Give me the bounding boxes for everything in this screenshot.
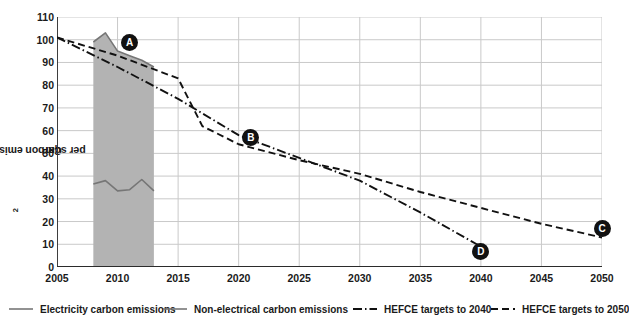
x-tick-label: 2020 <box>219 272 259 284</box>
legend-swatch-solid <box>8 304 34 314</box>
y-tick-label: 110 <box>20 12 54 22</box>
plot-area: ABCD <box>57 17 602 267</box>
x-tick-label: 2035 <box>400 272 440 284</box>
x-tick-label: 2025 <box>279 272 319 284</box>
y-tick-label: 40 <box>20 171 54 181</box>
x-tick-label: 2050 <box>582 272 622 284</box>
x-tick-label: 2010 <box>98 272 138 284</box>
x-tick-label: 2005 <box>37 272 77 284</box>
x-tick-label: 2030 <box>340 272 380 284</box>
legend-label: HEFCE targets to 2050 <box>522 304 629 315</box>
x-axis-tick-labels: 2005201020152020202520302035204020452050 <box>0 272 627 290</box>
legend-item-0[interactable]: Electricity carbon emissions <box>8 304 176 315</box>
y-tick-label: 80 <box>20 80 54 90</box>
y-tick-label: 100 <box>20 35 54 45</box>
y-tick-label: 10 <box>20 239 54 249</box>
shaded-data-band <box>93 33 154 267</box>
chart-legend: Electricity carbon emissionsNon-electric… <box>0 298 627 320</box>
annotation-marker-c: C <box>594 220 611 237</box>
x-tick-label: 2045 <box>521 272 561 284</box>
y-tick-label: 70 <box>20 103 54 113</box>
legend-swatch-dashdot <box>352 304 378 314</box>
y-tick-label: 20 <box>20 217 54 227</box>
legend-item-2[interactable]: HEFCE targets to 2040 <box>352 304 491 315</box>
legend-swatch-solid <box>162 304 188 314</box>
legend-swatch-dashed <box>490 304 516 314</box>
y-tick-label: 30 <box>20 194 54 204</box>
chart-canvas <box>57 17 602 267</box>
y-tick-label: 50 <box>20 148 54 158</box>
legend-label: Non-electrical carbon emissions <box>194 304 348 315</box>
y-tick-label: 60 <box>20 126 54 136</box>
legend-label: Electricity carbon emissions <box>40 304 176 315</box>
y-tick-label: 90 <box>20 57 54 67</box>
x-tick-label: 2015 <box>158 272 198 284</box>
y-tick-label: 0 <box>20 262 54 272</box>
annotation-marker-d: D <box>472 243 489 260</box>
legend-label: HEFCE targets to 2040 <box>384 304 491 315</box>
annotation-marker-a: A <box>121 34 138 51</box>
x-tick-label: 2040 <box>461 272 501 284</box>
legend-item-1[interactable]: Non-electrical carbon emissions <box>162 304 348 315</box>
legend-item-3[interactable]: HEFCE targets to 2050 <box>490 304 629 315</box>
